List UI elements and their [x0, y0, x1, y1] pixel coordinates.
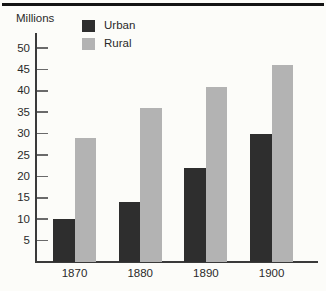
bar-urban-1870: [53, 219, 75, 262]
bar-chart-figure: Millions Urban Rural 5101520253035404550…: [0, 0, 326, 291]
legend-label-urban: Urban: [104, 19, 135, 32]
y-tick-label: 35: [2, 106, 30, 119]
legend-item-rural: Rural: [82, 37, 135, 50]
y-axis-line: [35, 33, 37, 262]
x-axis-label: 1890: [184, 267, 228, 279]
top-rule: [2, 3, 324, 6]
y-tick-label: 50: [2, 42, 30, 55]
y-tick-mark: [37, 90, 48, 92]
y-tick-label: 40: [2, 84, 30, 97]
bar-rural-1890: [206, 87, 228, 262]
y-tick-mark: [37, 218, 48, 220]
y-tick-label: 45: [2, 63, 30, 76]
y-tick-label: 25: [2, 149, 30, 162]
y-axis-unit-label: Millions: [16, 12, 54, 24]
legend-item-urban: Urban: [82, 19, 135, 32]
y-tick-mark: [37, 111, 48, 113]
y-tick-mark: [37, 154, 48, 156]
rural-swatch-icon: [82, 38, 95, 50]
x-axis-label: 1880: [118, 267, 162, 279]
y-tick-mark: [37, 240, 48, 242]
y-tick-label: 5: [2, 234, 30, 247]
y-tick-label: 10: [2, 213, 30, 226]
x-axis-label: 1900: [250, 267, 294, 279]
legend: Urban Rural: [82, 19, 135, 55]
bar-rural-1880: [140, 108, 162, 262]
bar-urban-1900: [250, 134, 272, 262]
bar-urban-1880: [119, 202, 141, 262]
bar-rural-1870: [75, 138, 97, 262]
bar-urban-1890: [184, 168, 206, 262]
y-tick-mark: [37, 176, 48, 178]
y-tick-label: 30: [2, 127, 30, 140]
x-axis-label: 1870: [53, 267, 97, 279]
y-tick-mark: [37, 47, 48, 49]
y-tick-mark: [37, 197, 48, 199]
y-tick-label: 20: [2, 170, 30, 183]
bar-rural-1900: [272, 65, 294, 262]
legend-label-rural: Rural: [104, 37, 131, 50]
y-tick-mark: [37, 133, 48, 135]
y-tick-mark: [37, 69, 48, 71]
y-tick-label: 15: [2, 191, 30, 204]
urban-swatch-icon: [82, 20, 95, 32]
